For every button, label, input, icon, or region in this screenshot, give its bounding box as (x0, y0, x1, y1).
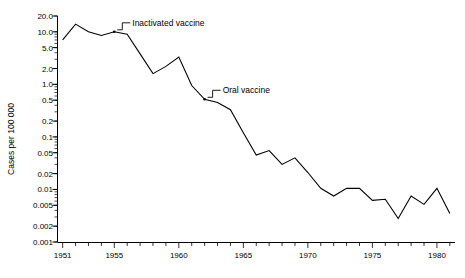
y-tick-label: 0.05 (37, 149, 53, 158)
y-tick-label: 20.0 (37, 12, 53, 21)
x-tick-label: 1955 (105, 251, 123, 260)
x-tick-label: 1980 (428, 251, 446, 260)
annotation-leader-line (117, 23, 130, 30)
x-tick-label: 1951 (54, 251, 72, 260)
annotation-group: Inactivated vaccineOral vaccine (113, 18, 270, 101)
y-tick-label: 1.0 (42, 80, 54, 89)
y-axis-title: Cases per 100 000 (6, 103, 16, 175)
y-tick-marks (53, 16, 58, 242)
y-tick-label: 0.002 (33, 222, 54, 231)
line-chart-canvas: 20.010.05.02.01.00.50.20.10.050.020.010.… (0, 0, 465, 278)
x-tick-marks (63, 243, 450, 249)
annotation-label-0: Inactivated vaccine (132, 18, 205, 28)
y-tick-label: 0.2 (42, 117, 54, 126)
x-tick-label: 1965 (234, 251, 252, 260)
y-tick-label: 10.0 (37, 28, 53, 37)
x-tick-label: 1970 (299, 251, 317, 260)
chart-figure: 20.010.05.02.01.00.50.20.10.050.020.010.… (0, 0, 465, 278)
y-tick-label: 0.001 (33, 238, 54, 247)
x-tick-labels: 1951195519601965197019751980 (54, 251, 447, 260)
y-tick-labels: 20.010.05.02.01.00.50.20.10.050.020.010.… (33, 12, 54, 247)
x-tick-label: 1975 (364, 251, 382, 260)
x-tick-label: 1960 (170, 251, 188, 260)
annotation-leader-line (208, 90, 221, 97)
y-tick-label: 0.1 (42, 133, 54, 142)
y-tick-label: 2.0 (42, 65, 54, 74)
annotation-label-1: Oral vaccine (223, 85, 271, 95)
y-tick-label: 0.02 (37, 170, 53, 179)
y-tick-label: 0.005 (33, 201, 54, 210)
y-tick-label: 5.0 (42, 44, 54, 53)
y-tick-label: 0.01 (37, 185, 53, 194)
y-tick-label: 0.5 (42, 96, 54, 105)
data-series-line (63, 24, 450, 218)
